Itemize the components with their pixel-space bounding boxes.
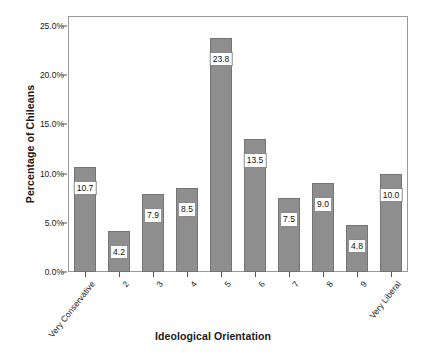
x-axis-tick-label: 5 bbox=[222, 279, 233, 289]
bar-value-label: 4.8 bbox=[348, 239, 366, 254]
y-axis-tick-mark bbox=[62, 222, 67, 223]
x-axis-tick-mark bbox=[391, 272, 392, 277]
y-axis-tick-mark bbox=[62, 173, 67, 174]
bar-chart: Percentage of Chileans 0.0%5.0%10.0%15.0… bbox=[0, 0, 426, 353]
x-axis-tick-mark bbox=[119, 272, 120, 277]
x-axis-tick-mark bbox=[153, 272, 154, 277]
x-axis-tick-label: 6 bbox=[256, 279, 267, 289]
x-axis-tick-label: 2 bbox=[120, 279, 131, 289]
y-axis-tick-label: 0.0% bbox=[18, 267, 64, 277]
x-axis-tick-label: 7 bbox=[290, 279, 301, 289]
bar-value-label: 23.8 bbox=[210, 52, 233, 67]
y-axis-tick-label: 25.0% bbox=[18, 21, 64, 31]
x-axis-tick-mark bbox=[289, 272, 290, 277]
bar bbox=[210, 38, 232, 272]
bar-value-label: 7.5 bbox=[280, 212, 298, 227]
bars-layer bbox=[68, 16, 408, 272]
bar-value-label: 10.7 bbox=[74, 181, 97, 196]
x-axis-tick-mark bbox=[187, 272, 188, 277]
x-axis-tick-label: 3 bbox=[154, 279, 165, 289]
y-axis-tick-label: 10.0% bbox=[18, 169, 64, 179]
x-axis-tick-mark bbox=[221, 272, 222, 277]
bar-value-label: 8.5 bbox=[178, 202, 196, 217]
y-axis-tick-label: 5.0% bbox=[18, 218, 64, 228]
y-axis-tick-label: 15.0% bbox=[18, 119, 64, 129]
x-axis-tick-label: Very Liberal bbox=[367, 279, 403, 321]
x-axis-tick-mark bbox=[357, 272, 358, 277]
x-axis-tick-label: 8 bbox=[324, 279, 335, 289]
x-axis-tick-mark bbox=[85, 272, 86, 277]
y-axis-tick-mark bbox=[62, 75, 67, 76]
x-axis-tick-mark bbox=[323, 272, 324, 277]
bar-value-label: 9.0 bbox=[314, 197, 332, 212]
x-axis-tick-label: 4 bbox=[188, 279, 199, 289]
bar-value-label: 13.5 bbox=[244, 153, 267, 168]
bar-value-label: 7.9 bbox=[144, 208, 162, 223]
bar-value-label: 10.0 bbox=[380, 188, 403, 203]
x-axis-title: Ideological Orientation bbox=[0, 330, 426, 342]
y-axis-ticks: 0.0%5.0%10.0%15.0%20.0%25.0% bbox=[12, 0, 64, 353]
x-axis-tick-mark bbox=[255, 272, 256, 277]
bar bbox=[142, 194, 164, 272]
bar bbox=[278, 198, 300, 272]
x-axis-tick-label: 9 bbox=[358, 279, 369, 289]
y-axis-tick-mark bbox=[62, 25, 67, 26]
y-axis-tick-mark bbox=[62, 124, 67, 125]
bar-value-label: 4.2 bbox=[110, 245, 128, 260]
y-axis-tick-label: 20.0% bbox=[18, 70, 64, 80]
bar bbox=[176, 188, 198, 272]
y-axis-tick-mark bbox=[62, 272, 67, 273]
